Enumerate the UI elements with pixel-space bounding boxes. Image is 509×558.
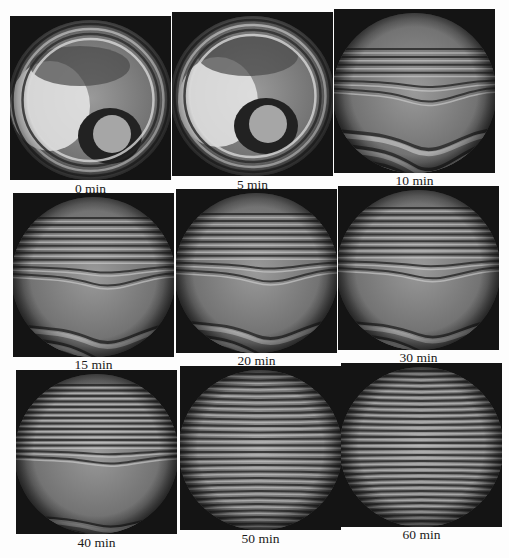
interferogram-panel: [180, 366, 341, 530]
panel-time-label: 50 min: [180, 531, 341, 547]
interferogram-panel: [334, 9, 495, 173]
interferogram-panel: [176, 189, 337, 353]
interferogram-panel: [10, 16, 171, 180]
interferogram-panel: [13, 193, 174, 357]
panel-time-label: 60 min: [341, 527, 502, 543]
interferogram-panel: [16, 370, 177, 534]
panel-time-label: 40 min: [16, 535, 177, 551]
interferogram-panel: [341, 363, 502, 527]
interferogram-panel: [172, 12, 333, 176]
interferogram-panel: [338, 186, 499, 350]
